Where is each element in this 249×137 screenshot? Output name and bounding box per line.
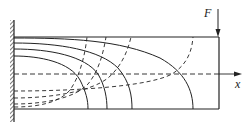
neutral-axis — [14, 72, 242, 77]
fixed-support-wall — [10, 20, 14, 122]
tension-trajectories — [14, 38, 193, 109]
compression-trajectories — [14, 37, 193, 107]
force-arrow-icon — [216, 29, 221, 37]
beam-diagram — [0, 0, 249, 137]
beam-outline — [14, 37, 219, 109]
force-label: F — [204, 6, 211, 21]
force-arrow — [216, 9, 221, 37]
axis-arrow-icon — [234, 72, 242, 77]
x-axis-label: x — [235, 77, 240, 92]
